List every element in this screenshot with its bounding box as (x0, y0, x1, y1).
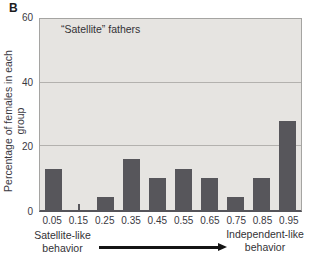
bar-slot-0.35 (118, 19, 144, 210)
annotation-right-line1: Independent-like (221, 228, 309, 241)
bar-slot-0.75 (223, 19, 249, 210)
bar-0.95 (279, 121, 296, 210)
bar-0.85 (253, 178, 270, 210)
arrow-shaft (99, 246, 218, 249)
bar-slot-0.85 (249, 19, 275, 210)
annotation-right-line2: behavior (221, 241, 309, 254)
x-tick-label-0.35: 0.35 (118, 215, 144, 226)
bar-0.55 (175, 169, 192, 210)
x-axis-annotation-right: Independent-like behavior (221, 228, 309, 254)
bar-0.35 (123, 159, 140, 210)
figure-panel-b: B Percentage of females in each group “S… (0, 0, 309, 262)
bar-slot-0.95 (275, 19, 301, 210)
bar-slot-0.65 (197, 19, 223, 210)
y-tick-label-40: 40 (0, 77, 33, 89)
x-tick-label-0.45: 0.45 (144, 215, 170, 226)
x-tick-label-0.25: 0.25 (92, 215, 118, 226)
bar-0.45 (149, 178, 166, 210)
bar-0.05 (45, 169, 62, 210)
y-tick-label-20: 20 (0, 141, 33, 153)
x-tick-label-0.55: 0.55 (170, 215, 196, 226)
x-axis-annotation-left: Satellite-like behavior (20, 229, 105, 255)
x-tick-label-0.75: 0.75 (223, 215, 249, 226)
y-axis-label: Percentage of females in each group (2, 36, 26, 206)
bar-slot-0.55 (170, 19, 196, 210)
y-tick-label-0: 0 (0, 206, 33, 218)
x-axis-ticks: 0.050.150.250.350.450.550.650.750.850.95 (39, 215, 302, 226)
bar-0.75 (227, 197, 244, 210)
x-tick-label-0.65: 0.65 (197, 215, 223, 226)
plot-area: “Satellite” fathers (39, 18, 302, 212)
x-tick-label-0.15: 0.15 (65, 215, 91, 226)
x-tick-label-0.95: 0.95 (276, 215, 302, 226)
bar-slot-0.15 (66, 19, 92, 210)
annotation-left-line1: Satellite-like (20, 229, 105, 242)
bar-slot-0.25 (92, 19, 118, 210)
bar-0.25 (97, 197, 114, 210)
bar-slot-0.45 (144, 19, 170, 210)
bar-slot-0.05 (40, 19, 66, 210)
x-tick-label-0.85: 0.85 (249, 215, 275, 226)
x-tick-label-0.05: 0.05 (39, 215, 65, 226)
right-arrow-icon (99, 243, 227, 252)
y-tick-label-60: 60 (0, 12, 33, 24)
bar-0.65 (201, 178, 218, 210)
bars-container (40, 19, 301, 210)
bar-0.15 (78, 204, 80, 210)
annotation-left-line2: behavior (20, 242, 105, 255)
